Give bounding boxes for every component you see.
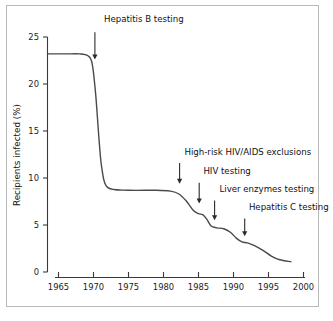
x-ticklabel-1970: 1970 <box>83 282 104 292</box>
annotation-arrow-head <box>212 215 217 220</box>
y-ticklabel-20: 20 <box>28 79 39 89</box>
x-ticklabel-2000: 2000 <box>293 282 314 292</box>
x-ticklabel-1965: 1965 <box>48 282 69 292</box>
annotation-arrow-head <box>177 179 182 184</box>
y-ticklabel-10: 10 <box>28 173 39 183</box>
annotation-arrows <box>92 32 247 236</box>
y-ticklabel-5: 5 <box>34 220 39 230</box>
x-ticklabel-1995: 1995 <box>258 282 279 292</box>
x-axis: 1965 1970 1975 1980 1985 1990 1995 2000 <box>48 272 314 292</box>
annotation-arrow-head <box>92 55 97 60</box>
y-axis: 25 20 15 10 5 0 Recipients infected (%) <box>12 32 48 277</box>
x-ticklabel-1990: 1990 <box>223 282 244 292</box>
data-series-line <box>48 54 291 262</box>
x-ticklabel-1975: 1975 <box>118 282 139 292</box>
y-axis-title: Recipients infected (%) <box>12 104 22 206</box>
chart-figure: 25 20 15 10 5 0 Recipients infected (%) … <box>0 0 333 321</box>
y-ticklabel-25: 25 <box>28 32 39 42</box>
plot-area: 25 20 15 10 5 0 Recipients infected (%) … <box>0 0 333 321</box>
annotation-hepatitis-b-testing: Hepatitis B testing <box>104 14 184 24</box>
y-ticklabel-15: 15 <box>28 126 39 136</box>
y-ticklabel-0: 0 <box>34 267 39 277</box>
annotation-arrow-head <box>242 231 247 236</box>
annotation-arrow-head <box>197 198 202 203</box>
x-ticklabel-1980: 1980 <box>153 282 174 292</box>
annotation-hepatitis-c-testing: Hepatitis C testing <box>249 202 329 212</box>
x-ticklabel-1985: 1985 <box>188 282 209 292</box>
annotation-hiv-testing: HIV testing <box>203 166 250 176</box>
annotation-high-risk-exclusions: High-risk HIV/AIDS exclusions <box>185 147 312 157</box>
chart-svg: 25 20 15 10 5 0 Recipients infected (%) … <box>0 0 333 321</box>
annotation-liver-enzymes-testing: Liver enzymes testing <box>220 184 315 194</box>
